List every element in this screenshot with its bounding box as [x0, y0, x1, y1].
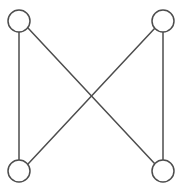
- graph-node-top-left: [8, 10, 30, 32]
- graph-node-bottom-right: [152, 160, 174, 182]
- graph-canvas: [0, 0, 181, 189]
- graph-node-top-right: [152, 10, 174, 32]
- graph-node-bottom-left: [8, 160, 30, 182]
- edges-layer: [19, 28, 163, 164]
- graph-figure: [0, 0, 181, 189]
